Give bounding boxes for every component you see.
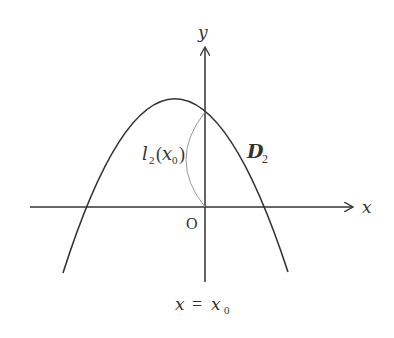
svg-text:0: 0	[172, 154, 178, 166]
y-axis-label: y	[197, 22, 208, 42]
svg-text:2: 2	[262, 152, 268, 166]
origin-label: O	[186, 215, 198, 232]
curve-label: D 2	[246, 140, 268, 166]
arc-length-label: l 2 ( x 0 )	[142, 143, 185, 166]
arc-length-curve	[186, 112, 205, 207]
svg-text:x: x	[175, 294, 185, 314]
vertical-line-label: x = x 0	[175, 294, 230, 316]
svg-text:2: 2	[149, 154, 155, 166]
svg-text:x: x	[211, 294, 221, 314]
svg-text:): )	[179, 144, 185, 165]
parabola-curve	[63, 99, 288, 273]
diagram-canvas: y x O D 2 l 2 ( x 0 ) x = x 0	[0, 0, 394, 338]
svg-text:0: 0	[224, 304, 230, 316]
x-axis-label: x	[362, 197, 372, 217]
svg-text:l: l	[142, 143, 148, 164]
svg-text:=: =	[192, 294, 202, 314]
svg-text:x: x	[162, 143, 172, 164]
